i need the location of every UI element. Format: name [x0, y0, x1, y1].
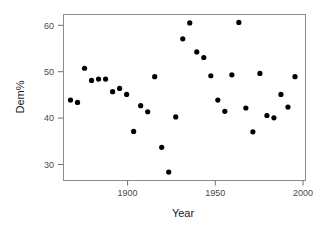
data-point [152, 74, 157, 79]
data-point [145, 109, 150, 114]
y-tick-label-30: 30 [44, 160, 54, 170]
data-point [173, 114, 178, 119]
y-axis-title: Dem% [14, 80, 26, 113]
data-point [96, 76, 101, 81]
y-tick-label-50: 50 [44, 67, 54, 77]
data-point [187, 20, 192, 25]
x-axis-title: Year [172, 207, 195, 219]
data-point [194, 49, 199, 54]
data-point [229, 72, 234, 77]
data-point [236, 20, 241, 25]
data-point [180, 36, 185, 41]
data-point [271, 115, 276, 120]
data-point [208, 73, 213, 78]
x-tick-label-1950: 1950 [205, 188, 225, 198]
y-tick-label-40: 40 [44, 113, 54, 123]
y-tick-label-60: 60 [44, 21, 54, 31]
data-point [166, 169, 171, 174]
data-point [117, 86, 122, 91]
data-point [82, 66, 87, 71]
x-axis-tick-labels: 1900 1950 2000 [118, 188, 313, 198]
data-point [110, 89, 115, 94]
data-point [257, 71, 262, 76]
data-point [201, 55, 206, 60]
data-point [278, 92, 283, 97]
data-point [292, 74, 297, 79]
y-axis-ticks [58, 25, 63, 164]
data-point [89, 78, 94, 83]
data-point [215, 97, 220, 102]
data-point [285, 104, 290, 109]
data-point [75, 100, 80, 105]
y-axis-tick-labels: 30 40 50 60 [44, 21, 54, 170]
data-point [131, 129, 136, 134]
x-tick-label-2000: 2000 [293, 188, 313, 198]
scatter-plot-figure: 30 40 50 60 1900 1950 2000 Year Dem% [0, 0, 328, 233]
data-point [68, 97, 73, 102]
chart-canvas: 30 40 50 60 1900 1950 2000 Year Dem% [0, 0, 328, 233]
data-point [222, 109, 227, 114]
data-point [124, 92, 129, 97]
data-point [264, 113, 269, 118]
data-point [250, 129, 255, 134]
data-point [138, 103, 143, 108]
x-tick-label-1900: 1900 [118, 188, 138, 198]
data-points-layer [68, 20, 298, 175]
x-axis-ticks [128, 181, 303, 186]
data-point [159, 145, 164, 150]
data-point [103, 76, 108, 81]
data-point [243, 105, 248, 110]
